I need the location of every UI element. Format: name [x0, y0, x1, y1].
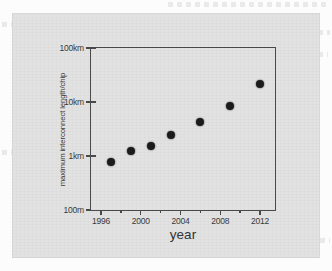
- x-axis-title-text: year: [170, 227, 196, 242]
- y-axis-tick-inner: [91, 47, 96, 48]
- x-axis-minor-tick: [239, 210, 240, 213]
- x-axis-tick: [140, 210, 141, 215]
- x-axis-tick-label: 2008: [211, 216, 229, 226]
- data-point: [147, 142, 155, 150]
- y-axis-title-text: maximum interconnect length/chip: [59, 72, 68, 186]
- y-axis-tick-label: 10km: [64, 97, 84, 107]
- x-axis-tick: [180, 210, 181, 215]
- x-axis-tick-label: 2004: [171, 216, 189, 226]
- data-point: [127, 147, 135, 155]
- plot-area: 100m1km10km100km19962000200420082012: [90, 47, 276, 211]
- y-axis-tick-label: 100m: [64, 205, 84, 215]
- x-axis-tick-label: 2012: [251, 216, 269, 226]
- data-point: [196, 118, 204, 126]
- x-axis-tick-label: 1996: [92, 216, 110, 226]
- data-point: [256, 80, 264, 88]
- data-point: [167, 131, 175, 139]
- x-axis-tick: [259, 210, 260, 215]
- y-axis-title: maximum interconnect length/chip: [56, 47, 70, 211]
- x-axis-tick: [220, 210, 221, 215]
- figure-panel: maximum interconnect length/chip 100m1km…: [12, 13, 320, 258]
- y-axis-tick-label: 100km: [59, 43, 84, 53]
- x-axis-title: year: [90, 227, 276, 242]
- x-axis-minor-tick: [160, 210, 161, 213]
- x-axis-tick-label: 2000: [132, 216, 150, 226]
- data-point: [107, 158, 115, 166]
- x-axis-tick: [100, 210, 101, 215]
- y-axis-tick-inner: [91, 101, 96, 102]
- x-axis-minor-tick: [120, 210, 121, 213]
- data-point: [226, 102, 234, 110]
- ghost-text-line: [168, 2, 328, 7]
- y-axis-tick-inner: [91, 155, 96, 156]
- y-axis-tick-label: 1km: [69, 151, 84, 161]
- scanned-page: maximum interconnect length/chip 100m1km…: [0, 0, 332, 271]
- ghost-text-line: [2, 150, 12, 155]
- y-axis-tick: [86, 209, 91, 210]
- x-axis-minor-tick: [200, 210, 201, 213]
